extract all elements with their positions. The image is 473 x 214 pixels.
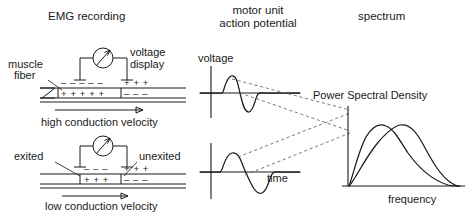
muap-voltage-axis-label: voltage — [198, 52, 233, 64]
bottom-inside-right-charges: – – – — [124, 174, 148, 185]
emg-spectrum-figure: EMG recording motor unit action potentia… — [0, 0, 473, 214]
psd-frequency-axis-label: frequency — [388, 193, 437, 205]
psd-curve-low-velocity — [349, 125, 458, 186]
high-velocity-arrow — [55, 107, 143, 113]
connector-bottom-upper — [238, 113, 350, 157]
low-conduction-velocity-caption: low conduction velocity — [45, 200, 158, 212]
top-outside-right-charges: + + + — [124, 77, 149, 88]
muap-bottom-plot: time — [200, 143, 300, 199]
emg-bottom-recording-diagram: exited unexited – – – + + + — [14, 136, 186, 212]
galvanometer-icon — [93, 48, 113, 68]
panel-title-spectrum: spectrum — [358, 10, 405, 22]
psd-plot-title: Power Spectral Density — [313, 89, 428, 101]
emg-top-recording-diagram: voltage display muscle fiber — [8, 46, 186, 128]
muscle-fiber-label-line2: fiber — [14, 69, 36, 81]
narrow-biphasic-waveform — [200, 76, 300, 112]
panel-title-emg: EMG recording — [48, 10, 125, 22]
top-outside-left-charges: – – – – – — [61, 77, 103, 88]
galvanometer-icon-bottom — [93, 136, 113, 156]
panel-title-muap-line2: action potential — [219, 17, 296, 29]
voltage-display-label-line2: display — [130, 58, 165, 70]
psd-curve-high-velocity — [349, 125, 460, 186]
low-velocity-arrow — [62, 193, 128, 199]
fiber-left-cap — [40, 88, 55, 98]
bottom-inside-left-charges: + + + — [84, 174, 109, 185]
muap-time-axis-label: time — [267, 172, 288, 184]
figure-canvas: EMG recording motor unit action potentia… — [0, 0, 473, 214]
top-inside-right-charges: – – – — [124, 88, 148, 99]
voltage-display-label-line1: voltage — [130, 46, 165, 58]
bottom-outside-left-charges: – – – — [84, 163, 108, 174]
high-conduction-velocity-caption: high conduction velocity — [41, 116, 158, 128]
panel-title-muap-line1: motor unit — [232, 4, 284, 16]
connector-bottom-lower — [245, 133, 350, 175]
exited-label: exited — [14, 150, 43, 162]
top-inside-left-charges: + + + + + — [61, 88, 105, 99]
bottom-outside-right-charges: + + + — [124, 163, 149, 174]
unexited-label: unexited — [139, 150, 181, 162]
